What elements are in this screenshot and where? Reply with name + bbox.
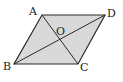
label-b: B — [3, 60, 11, 73]
label-o: O — [56, 25, 65, 38]
label-d: D — [107, 7, 116, 20]
label-a: A — [28, 5, 38, 18]
parallelogram-diagram: A D B C O — [0, 0, 123, 82]
label-c: C — [80, 61, 88, 74]
